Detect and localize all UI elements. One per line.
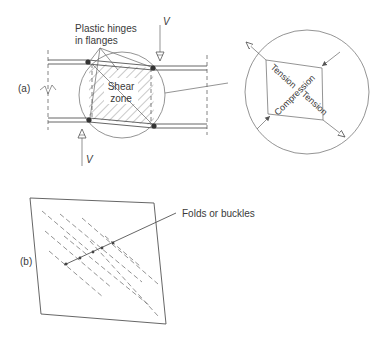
plastic-hinge-dot xyxy=(151,123,156,128)
stress-detail: Tension Compression Tension xyxy=(245,30,369,154)
load-label-bottom: V xyxy=(86,154,94,165)
tension-arrow-lower xyxy=(323,120,345,137)
folds-label: Folds or buckles xyxy=(182,208,255,219)
load-arrow-top: V xyxy=(156,16,171,61)
plastic-hinge-dot xyxy=(85,59,90,64)
load-arrow-bottom: V xyxy=(78,129,94,166)
part-b: (b) Folds or buckles xyxy=(20,198,255,324)
part-a: (a) xyxy=(18,16,369,166)
tension-label-2: Tension xyxy=(300,89,330,117)
shear-label-line1: Shear xyxy=(108,81,135,92)
shear-label-line2: zone xyxy=(110,93,132,104)
detail-leader-line xyxy=(165,83,228,93)
compression-arrow-lower xyxy=(257,116,270,129)
part-a-label: (a) xyxy=(18,83,30,94)
fold-lines xyxy=(42,211,158,316)
tension-label-1: Tension xyxy=(269,62,299,90)
hinges-label-line1: Plastic hinges xyxy=(75,23,137,34)
hinges-label-line2: in flanges xyxy=(75,35,118,46)
buckled-web-panel xyxy=(30,198,166,324)
plastic-hinge-dot xyxy=(86,117,91,122)
load-label-top: V xyxy=(163,16,171,27)
part-b-label: (b) xyxy=(20,256,32,267)
compression-arrow-upper xyxy=(322,52,340,66)
plastic-hinge-dot xyxy=(150,65,155,70)
shear-panel-diagram: (a) xyxy=(0,0,386,338)
